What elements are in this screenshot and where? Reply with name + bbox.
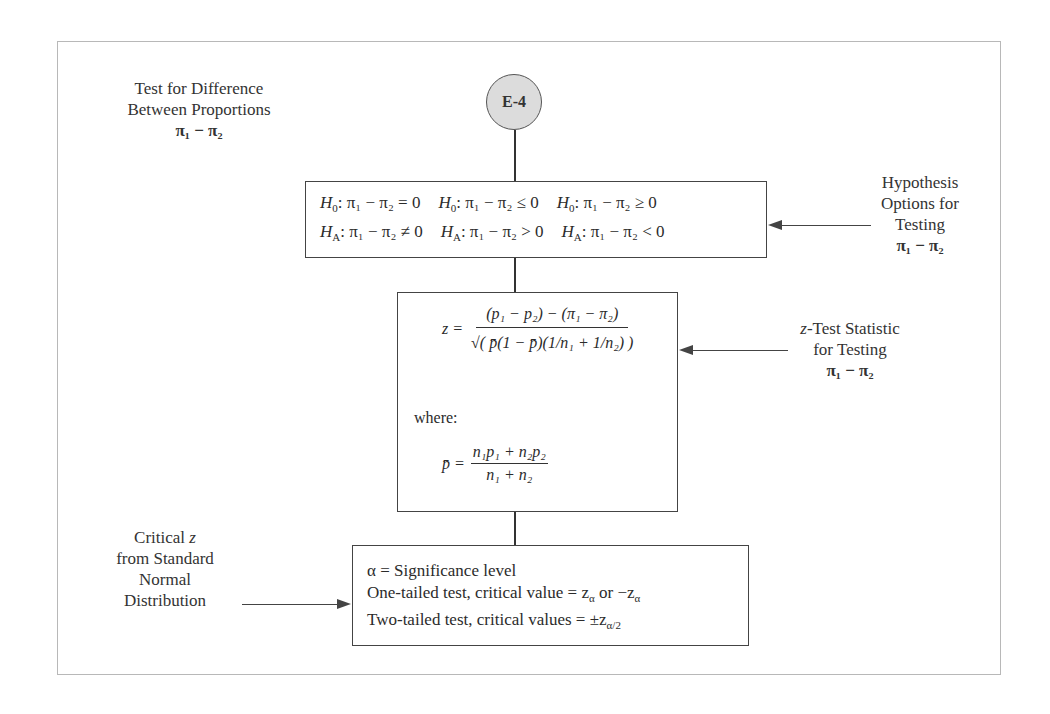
- hyp-label-line-2: Options for: [860, 193, 980, 214]
- where-label: where:: [414, 409, 458, 427]
- z-denominator: √( p̄(1 − p̄)(1/n₁ + 1/n₂) ): [471, 328, 633, 352]
- title-line-1: Test for Difference: [86, 78, 312, 99]
- h0-upper-tailed: H0: π₁ − π₂ ≤ 0: [438, 191, 538, 220]
- hyp-label-line-1: Hypothesis: [860, 172, 980, 193]
- z-formula: z = (p₁ − p₂) − (π₁ − π₂) √( p̄(1 − p̄)(…: [442, 305, 633, 352]
- z-fraction: (p₁ − p₂) − (π₁ − π₂) √( p̄(1 − p̄)(1/n₁…: [471, 305, 633, 352]
- h0-lower-tailed: H0: π₁ − π₂ ≥ 0: [557, 191, 657, 220]
- alt-hypotheses-row: HA: π₁ − π₂ ≠ 0 HA: π₁ − π₂ > 0 HA: π₁ −…: [320, 220, 766, 249]
- ha-two-tailed: HA: π₁ − π₂ ≠ 0: [320, 220, 423, 249]
- z-numerator: (p₁ − p₂) − (π₁ − π₂): [476, 305, 628, 328]
- stat-label-line-1: z-Test Statistic: [780, 318, 920, 339]
- ha-lower-tailed: HA: π₁ − π₂ < 0: [562, 220, 665, 249]
- crit-label-line-2: from Standard: [95, 548, 235, 569]
- pbar-formula: p̄ = n₁p₁ + n₂p₂ n₁ + n₂: [442, 443, 548, 484]
- test-title-label: Test for Difference Between Proportions …: [86, 78, 312, 141]
- node-label: E-4: [502, 93, 526, 111]
- connector-formula-to-critical: [514, 512, 516, 545]
- null-hypotheses-row: H0: π₁ − π₂ = 0 H0: π₁ − π₂ ≤ 0 H0: π₁ −…: [320, 191, 766, 220]
- critical-value-box: α = Significance level One-tailed test, …: [352, 545, 749, 646]
- one-tailed-line: One-tailed test, critical value = zα or …: [367, 582, 748, 609]
- hypotheses-box: H0: π₁ − π₂ = 0 H0: π₁ − π₂ ≤ 0 H0: π₁ −…: [305, 181, 767, 258]
- critical-arrowhead-icon: [337, 599, 351, 609]
- ha-upper-tailed: HA: π₁ − π₂ > 0: [441, 220, 544, 249]
- hypothesis-options-label: Hypothesis Options for Testing π₁ − π₂: [860, 172, 980, 256]
- test-statistic-box: z = (p₁ − p₂) − (π₁ − π₂) √( p̄(1 − p̄)(…: [397, 292, 678, 512]
- two-tailed-line: Two-tailed test, critical values = ±zα/2: [367, 609, 748, 636]
- stat-label-param: π₁ − π₂: [780, 360, 920, 381]
- pbar-numerator: n₁p₁ + n₂p₂: [471, 443, 548, 464]
- node-e4: E-4: [486, 74, 542, 130]
- crit-label-line-4: Distribution: [95, 590, 235, 611]
- connector-hypotheses-to-formula: [514, 258, 516, 292]
- statistic-arrowhead-icon: [679, 345, 693, 355]
- pbar-lhs: p̄ =: [442, 455, 465, 473]
- hypothesis-arrow: [781, 225, 871, 226]
- critical-arrow: [242, 604, 338, 605]
- stat-label-line-2: for Testing: [780, 339, 920, 360]
- significance-level-line: α = Significance level: [367, 560, 748, 582]
- z-lhs: z =: [442, 320, 463, 338]
- statistic-arrow: [692, 350, 788, 351]
- crit-label-line-1: Critical z: [95, 527, 235, 548]
- crit-label-line-3: Normal: [95, 569, 235, 590]
- critical-z-label: Critical z from Standard Normal Distribu…: [95, 527, 235, 611]
- pbar-denominator: n₁ + n₂: [486, 464, 532, 484]
- pbar-fraction: n₁p₁ + n₂p₂ n₁ + n₂: [471, 443, 548, 484]
- h0-two-tailed: H0: π₁ − π₂ = 0: [320, 191, 420, 220]
- connector-node-to-hypotheses: [514, 130, 516, 181]
- z-test-statistic-label: z-Test Statistic for Testing π₁ − π₂: [780, 318, 920, 381]
- hyp-label-param: π₁ − π₂: [860, 235, 980, 256]
- title-param: π₁ − π₂: [86, 120, 312, 141]
- title-line-2: Between Proportions: [86, 99, 312, 120]
- hyp-label-line-3: Testing: [860, 214, 980, 235]
- hypothesis-arrowhead-icon: [768, 220, 782, 230]
